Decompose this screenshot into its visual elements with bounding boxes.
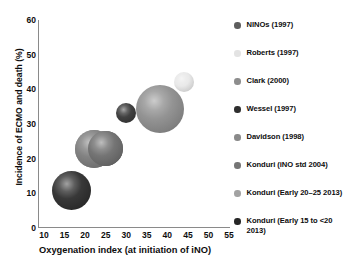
legend-item-clark[interactable]: Clark (2000) xyxy=(234,76,353,86)
legend-item-wessel[interactable]: Wessel (1997) xyxy=(234,104,353,114)
x-tick-40: 40 xyxy=(163,231,172,240)
legend-item-label: Konduri (Early 15 to <20 2013) xyxy=(247,216,353,235)
legend-item-konduri-ino-std[interactable]: Konduri (iNO std 2004) xyxy=(234,160,353,170)
legend-marker-icon xyxy=(234,134,241,141)
legend-marker-icon xyxy=(234,162,241,169)
x-tick-45: 45 xyxy=(183,231,192,240)
legend-item-konduri-early-15-20[interactable]: Konduri (Early 15 to <20 2013) xyxy=(234,216,353,235)
plot-area xyxy=(38,20,230,228)
x-tick-20: 20 xyxy=(80,231,89,240)
legend-item-label: Konduri (Early 20–25 2013) xyxy=(247,188,343,198)
legend-item-label: Davidson (1998) xyxy=(247,132,305,142)
data-bubble xyxy=(116,103,136,123)
data-bubble xyxy=(174,72,194,92)
legend-item-ninos[interactable]: NINOs (1997) xyxy=(234,20,353,30)
legend-marker-icon xyxy=(234,218,241,225)
x-tick-50: 50 xyxy=(204,231,213,240)
legend-item-label: NINOs (1997) xyxy=(247,20,294,30)
legend-marker-icon xyxy=(234,190,241,197)
legend-item-label: Wessel (1997) xyxy=(247,104,296,114)
legend-item-label: Clark (2000) xyxy=(247,76,289,86)
chart-legend: NINOs (1997) Roberts (1997) Clark (2000)… xyxy=(234,12,353,252)
x-tick-35: 35 xyxy=(142,231,151,240)
bubble-chart-figure: 60 50 40 30 20 10 0 Incidence of ECMO an… xyxy=(0,0,353,274)
data-bubble xyxy=(88,131,123,166)
legend-marker-icon xyxy=(234,106,241,113)
legend-item-label: Konduri (iNO std 2004) xyxy=(247,160,328,170)
x-tick-55: 55 xyxy=(224,231,233,240)
x-tick-15: 15 xyxy=(60,231,69,240)
legend-marker-icon xyxy=(234,22,241,29)
x-axis-title: Oxygenation index (at initiation of iNO) xyxy=(0,245,250,255)
x-tick-30: 30 xyxy=(121,231,130,240)
y-tick-0: 0 xyxy=(10,224,36,233)
y-axis-title: Incidence of ECMO and death (%) xyxy=(14,42,24,192)
legend-marker-icon xyxy=(234,50,241,57)
y-tick-60: 60 xyxy=(10,16,36,25)
x-tick-25: 25 xyxy=(101,231,110,240)
data-bubble xyxy=(52,171,91,210)
legend-item-label: Roberts (1997) xyxy=(247,48,299,58)
legend-item-roberts[interactable]: Roberts (1997) xyxy=(234,48,353,58)
data-bubble xyxy=(136,85,184,133)
legend-marker-icon xyxy=(234,78,241,85)
legend-item-konduri-early-20-25[interactable]: Konduri (Early 20–25 2013) xyxy=(234,188,353,198)
legend-item-davidson[interactable]: Davidson (1998) xyxy=(234,132,353,142)
x-tick-10: 10 xyxy=(39,231,48,240)
